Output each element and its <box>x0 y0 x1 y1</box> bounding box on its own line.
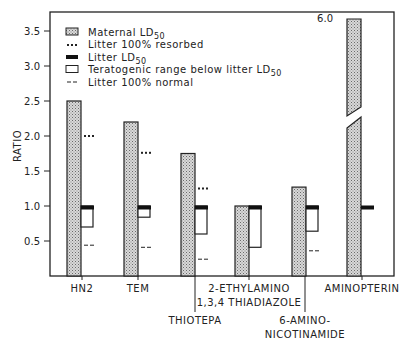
black-bar-icon <box>66 55 78 59</box>
resorbed-dots <box>84 135 86 137</box>
y-tick-label: 1.0 <box>24 201 40 212</box>
litter-ld50-bar <box>361 206 374 210</box>
legend-label: Litter 100% normal <box>88 77 193 88</box>
x-category-label: 2-ETHYLAMINO1,3,4 THIADIAZOLE <box>197 276 302 308</box>
bar-group <box>292 187 319 276</box>
x-category-label: AMINOPTERIN <box>324 276 399 294</box>
y-tick-label: 3.5 <box>24 26 40 37</box>
svg-text:NICOTINAMIDE: NICOTINAMIDE <box>265 329 345 340</box>
y-tick-label: 2.0 <box>24 131 40 142</box>
x-axis-labels: HN2TEMTHIOTEPA2-ETHYLAMINO1,3,4 THIADIAZ… <box>71 276 400 340</box>
maternal-bar <box>347 117 361 276</box>
legend-label: Litter 100% resorbed <box>88 39 204 50</box>
maternal-bar <box>67 101 81 276</box>
resorbed-dots <box>198 188 200 190</box>
y-tick-label: 2.5 <box>24 96 40 107</box>
svg-text:2-ETHYLAMINO: 2-ETHYLAMINO <box>208 283 290 294</box>
resorbed-dots <box>206 188 208 190</box>
teratogenic-box <box>306 206 318 231</box>
resorbed-dots <box>202 188 204 190</box>
svg-text:THIOTEPA: THIOTEPA <box>167 315 221 326</box>
teratogenic-box <box>195 206 207 234</box>
legend-item-normal: Litter 100% normal <box>67 77 193 88</box>
litter-ld50-bar <box>81 206 94 210</box>
maternal-bar <box>124 122 138 276</box>
x-category-label: HN2 <box>71 276 94 294</box>
resorbed-dots <box>92 135 94 137</box>
stippled-box-icon <box>66 28 78 35</box>
y-axis-label: RATIO <box>12 130 23 162</box>
bar-group <box>67 101 94 276</box>
resorbed-dots <box>149 152 151 154</box>
bar-group <box>347 19 374 276</box>
x-category-label: TEM <box>126 276 150 294</box>
y-axis: 0.51.01.52.02.53.03.5 <box>24 26 50 247</box>
aminopterin-value-label: 6.0 <box>317 13 333 24</box>
svg-text:1,3,4 THIADIAZOLE: 1,3,4 THIADIAZOLE <box>197 297 302 308</box>
dots-icon <box>67 44 69 46</box>
bar-group <box>181 154 208 277</box>
litter-ld50-bar <box>306 206 319 210</box>
chart: 0.51.01.52.02.53.03.5 RATIO Maternal LD5… <box>0 0 409 351</box>
svg-text:HN2: HN2 <box>71 283 94 294</box>
resorbed-dots <box>88 135 90 137</box>
open-box-icon <box>66 66 78 73</box>
resorbed-dots <box>141 152 143 154</box>
legend: Maternal LD50Litter 100% resorbedLitter … <box>66 27 282 88</box>
maternal-bar <box>181 154 195 277</box>
dots-icon <box>71 44 73 46</box>
bar-group <box>124 122 151 276</box>
y-tick-label: 0.5 <box>24 236 40 247</box>
svg-text:AMINOPTERIN: AMINOPTERIN <box>324 283 399 294</box>
svg-text:6-AMINO-: 6-AMINO- <box>279 315 330 326</box>
bar-group <box>235 206 262 277</box>
maternal-bar <box>235 206 249 276</box>
litter-ld50-bar <box>249 206 262 210</box>
svg-text:TEM: TEM <box>126 283 150 294</box>
legend-item-resorbed: Litter 100% resorbed <box>67 39 204 50</box>
maternal-bar <box>292 187 306 276</box>
litter-ld50-bar <box>195 206 208 210</box>
maternal-bar <box>347 19 361 116</box>
litter-ld50-bar <box>138 206 151 210</box>
y-tick-label: 1.5 <box>24 166 40 177</box>
dots-icon <box>75 44 77 46</box>
teratogenic-box <box>249 206 261 247</box>
y-tick-label: 3.0 <box>24 61 40 72</box>
resorbed-dots <box>145 152 147 154</box>
